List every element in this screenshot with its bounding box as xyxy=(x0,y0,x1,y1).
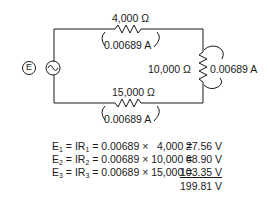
source-label: E xyxy=(26,63,32,72)
bottom-current-arc-right xyxy=(154,106,159,121)
right-resistor-icon xyxy=(199,52,207,82)
equation-row-3: E3 = IR3 = 0.00689 × 15,000 = xyxy=(52,167,192,179)
top-current-arc-right xyxy=(154,32,159,47)
sine-icon xyxy=(48,66,58,71)
right-current-arc-top xyxy=(204,46,223,59)
result-3: 103.35 V xyxy=(180,167,222,178)
equation-row-1: E1 = IR1 = 0.00689 × 4,000 = xyxy=(52,141,192,153)
result-2: 68.90 V xyxy=(186,154,222,165)
bottom-resistor-icon xyxy=(115,99,141,107)
right-current-arc-bottom xyxy=(204,78,222,89)
right-current-label: 0.00689 A xyxy=(210,64,257,75)
result-1: 27.56 V xyxy=(186,141,222,152)
total-voltage: 199.81 V xyxy=(180,181,222,192)
bottom-current-label: 0.00689 A xyxy=(104,114,151,125)
top-resistor-icon xyxy=(115,25,141,33)
bottom-resistance-label: 15,000 Ω xyxy=(112,87,155,98)
top-resistance-label: 4,000 Ω xyxy=(112,13,149,24)
equation-row-2: E2 = IR2 = 0.00689 × 10,000 = xyxy=(52,154,192,166)
bottom-left-wire xyxy=(54,75,115,103)
right-resistance-label: 10,000 Ω xyxy=(148,64,191,75)
top-current-label: 0.00689 A xyxy=(104,40,151,51)
